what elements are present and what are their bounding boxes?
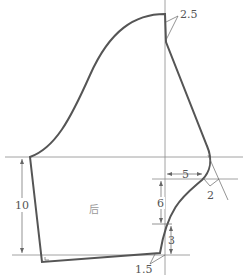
leader-line xyxy=(166,16,178,40)
dim-diagonal-offset: 2 xyxy=(207,189,214,202)
piece-label: 后 xyxy=(89,204,99,215)
dim-horizontal-offset: 5 xyxy=(182,168,189,181)
dim-vertical-upper: 6 xyxy=(157,197,164,210)
arrow-icon xyxy=(197,172,202,176)
arrow-icon xyxy=(159,218,163,223)
dim-top-offset: 2.5 xyxy=(180,8,198,21)
arrow-icon xyxy=(167,172,172,176)
arrow-icon xyxy=(20,159,24,164)
pattern-drawing: 2.5 5 2 6 3 1.5 10 后 xyxy=(0,0,243,275)
pattern-outline xyxy=(30,14,210,262)
arrow-icon xyxy=(159,181,163,186)
dim-bottom-offset: 1.5 xyxy=(135,263,153,275)
dim-vertical-lower: 3 xyxy=(168,234,175,247)
dim-diagonal-leader xyxy=(204,179,219,186)
dim-left-height: 10 xyxy=(15,199,29,212)
arrow-icon xyxy=(169,226,173,231)
right-angle-mark xyxy=(45,257,49,260)
arrow-icon xyxy=(169,249,173,254)
arrow-icon xyxy=(20,248,24,253)
